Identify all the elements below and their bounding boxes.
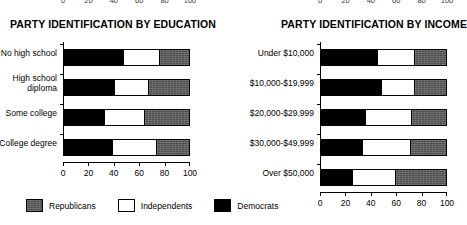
republicans-swatch	[26, 199, 43, 212]
x-axis-tick-label: 0	[61, 168, 66, 178]
x-axis-tick	[88, 162, 89, 166]
bar-row: High schooldiploma	[63, 72, 190, 102]
clipped-tick-label: 100	[184, 0, 197, 5]
clipped-tick-label: 60	[392, 0, 400, 5]
chart-income-title: PARTY IDENTIFICATION BY INCOME	[281, 18, 467, 30]
segment-democrats	[321, 50, 377, 65]
x-axis-tick	[63, 162, 64, 166]
x-axis-tick-label: 80	[160, 168, 169, 178]
segment-republicans	[157, 140, 190, 155]
bar-row: $30,000-$49,999	[320, 132, 447, 162]
clipped-tick-label: 40	[367, 0, 375, 5]
x-axis-tick	[345, 192, 346, 196]
segment-republicans	[415, 80, 446, 95]
stacked-bar	[63, 109, 190, 126]
legend-label: Republicans	[49, 201, 96, 211]
legend-item: Republicans	[26, 199, 96, 212]
y-axis-tick	[60, 74, 64, 75]
y-axis-tick	[60, 44, 64, 45]
x-axis-tick-label: 100	[183, 168, 197, 178]
x-axis-tick-label: 60	[134, 168, 143, 178]
x-axis-tick-label: 100	[440, 198, 454, 208]
segment-republicans	[145, 110, 189, 125]
chart-education-rows: No high schoolHigh schooldiplomaSome col…	[63, 42, 190, 162]
segment-democrats	[64, 50, 123, 65]
bar-row: College degree	[63, 132, 190, 162]
y-axis-tick	[317, 164, 321, 165]
segment-independents	[381, 80, 415, 95]
bar-row: $10,000-$19,999	[320, 72, 447, 102]
bar-category-label: Over $50,000	[262, 168, 314, 178]
y-axis-tick	[317, 44, 321, 45]
stacked-bar	[320, 49, 447, 66]
chart-income-plot: Under $10,000$10,000-$19,999$20,000-$29,…	[320, 42, 447, 192]
stacked-bar	[320, 79, 447, 96]
x-axis-tick	[189, 162, 190, 166]
stacked-bar	[320, 109, 447, 126]
legend-label: Democrats	[237, 201, 278, 211]
segment-independents	[123, 50, 161, 65]
bar-category-label: $10,000-$19,999	[250, 78, 314, 88]
x-axis-tick-label: 20	[84, 168, 93, 178]
clipped-tick-label: 20	[341, 0, 349, 5]
bar-category-label: Some college	[5, 108, 57, 118]
legend-item: Democrats	[214, 199, 278, 212]
clipped-tick-label: 60	[135, 0, 143, 5]
x-axis-tick	[396, 192, 397, 196]
segment-independents	[114, 80, 149, 95]
segment-republicans	[412, 110, 446, 125]
x-axis-tick-label: 80	[417, 198, 426, 208]
x-axis-tick	[114, 162, 115, 166]
segment-republicans	[411, 140, 446, 155]
segment-democrats	[64, 80, 114, 95]
x-axis-tick-label: 40	[366, 198, 375, 208]
stacked-bar	[63, 139, 190, 156]
x-axis-tick	[139, 162, 140, 166]
y-axis-tick	[317, 74, 321, 75]
segment-republicans	[149, 80, 189, 95]
y-axis-tick	[60, 104, 64, 105]
stacked-bar	[320, 169, 447, 186]
bar-row: No high school	[63, 42, 190, 72]
segment-independents	[104, 110, 145, 125]
segment-democrats	[321, 110, 365, 125]
x-axis-tick	[165, 162, 166, 166]
chart-income: PARTY IDENTIFICATION BY INCOME Under $10…	[229, 18, 459, 208]
segment-democrats	[321, 80, 381, 95]
stacked-bar	[63, 49, 190, 66]
bar-category-label: College degree	[0, 138, 57, 148]
x-axis-line	[63, 162, 190, 163]
x-axis-tick	[320, 192, 321, 196]
segment-democrats	[64, 140, 112, 155]
segment-independents	[362, 140, 411, 155]
x-axis-tick	[446, 192, 447, 196]
segment-republicans	[415, 50, 446, 65]
independents-swatch	[118, 199, 135, 212]
y-axis-tick	[317, 104, 321, 105]
x-axis-tick-label: 0	[318, 198, 323, 208]
y-axis-tick	[317, 134, 321, 135]
chart-education-title: PARTY IDENTIFICATION BY EDUCATION	[10, 18, 216, 30]
x-axis-tick-label: 60	[391, 198, 400, 208]
clipped-tick-label: 100	[441, 0, 454, 5]
segment-democrats	[321, 140, 362, 155]
chart-education: PARTY IDENTIFICATION BY EDUCATION No hig…	[0, 18, 230, 208]
x-axis-tick	[422, 192, 423, 196]
bar-row: $20,000-$29,999	[320, 102, 447, 132]
stacked-bar	[320, 139, 447, 156]
clipped-upper-axis-right-ticks: 020406080100	[320, 0, 447, 8]
segment-independents	[112, 140, 157, 155]
stacked-bar	[63, 79, 190, 96]
clipped-tick-label: 0	[318, 0, 322, 5]
x-axis-line	[320, 192, 447, 193]
bar-category-label: No high school	[1, 48, 57, 58]
clipped-tick-label: 80	[417, 0, 425, 5]
bar-category-label: $20,000-$29,999	[250, 108, 314, 118]
bar-row: Over $50,000	[320, 162, 447, 192]
segment-independents	[352, 170, 396, 185]
clipped-upper-axis-left-ticks: 020406080100	[63, 0, 190, 8]
y-axis-tick	[60, 134, 64, 135]
clipped-upper-axis: 020406080100 020406080100	[0, 0, 459, 9]
legend: RepublicansIndependentsDemocrats	[26, 199, 300, 212]
